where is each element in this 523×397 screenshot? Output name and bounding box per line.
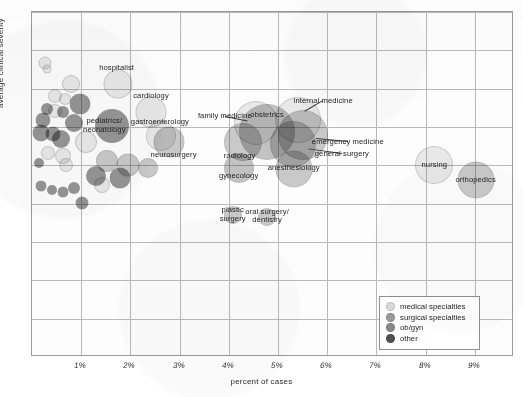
data-bubble	[258, 208, 276, 226]
data-bubble-unlabeled	[138, 158, 158, 178]
gridline-horizontal	[32, 50, 512, 51]
gridline-vertical	[278, 12, 279, 355]
legend-swatch-icon	[386, 323, 395, 332]
gridline-vertical	[180, 12, 181, 355]
data-bubble	[224, 206, 242, 224]
x-axis-tick-label: 5%	[270, 361, 283, 370]
legend-item: ob/gyn	[386, 323, 473, 332]
data-bubble-unlabeled	[62, 75, 80, 93]
gridline-vertical	[376, 12, 377, 355]
data-bubble-unlabeled	[94, 177, 110, 193]
x-axis-tick-label: 6%	[320, 361, 333, 370]
legend-item: surgical specialties	[386, 313, 473, 322]
data-bubble-unlabeled	[76, 196, 89, 209]
gridline-horizontal	[32, 242, 512, 243]
gridline-vertical	[327, 12, 328, 355]
gridline-horizontal	[32, 280, 512, 281]
x-axis-tick-label: 4%	[221, 361, 234, 370]
x-axis-tick-label: 9%	[467, 361, 480, 370]
data-bubble	[457, 161, 494, 198]
data-bubble-unlabeled	[57, 187, 68, 198]
data-bubble	[224, 153, 254, 183]
data-bubble-unlabeled	[47, 185, 57, 195]
x-axis-tick-label: 3%	[172, 361, 185, 370]
data-bubble-unlabeled	[52, 130, 70, 148]
legend-swatch-icon	[386, 334, 395, 343]
data-bubble	[415, 146, 453, 184]
data-bubble-unlabeled	[59, 158, 73, 172]
data-bubble	[104, 70, 133, 99]
x-axis-tick-label: 8%	[418, 361, 431, 370]
data-bubble-unlabeled	[68, 182, 80, 194]
x-axis-tick-label: 1%	[74, 361, 87, 370]
legend-item-label: surgical specialties	[400, 313, 465, 322]
data-bubble-unlabeled	[70, 94, 91, 115]
data-bubble-unlabeled	[35, 181, 46, 192]
data-bubble	[275, 151, 312, 188]
gridline-horizontal	[32, 12, 512, 13]
y-axis-title: average clinical severity	[0, 18, 5, 108]
legend-swatch-icon	[386, 302, 395, 311]
chart-title	[120, 0, 420, 4]
gridline-vertical	[130, 12, 131, 355]
data-bubble-unlabeled	[41, 146, 55, 160]
legend-item: medical specialties	[386, 302, 473, 311]
data-bubble-unlabeled	[59, 93, 71, 105]
legend-swatch-icon	[386, 313, 395, 322]
legend: medical specialtiessurgical specialtieso…	[379, 296, 480, 350]
data-bubble	[95, 109, 129, 143]
data-bubble-unlabeled	[65, 114, 83, 132]
x-axis-title: percent of cases	[0, 377, 523, 386]
data-bubble-unlabeled	[109, 168, 130, 189]
legend-item-label: other	[400, 334, 418, 343]
legend-item-label: ob/gyn	[400, 323, 423, 332]
gridline-vertical	[229, 12, 230, 355]
data-bubble	[153, 126, 184, 157]
data-bubble-unlabeled	[42, 64, 51, 73]
x-axis-tick-label: 2%	[123, 361, 136, 370]
data-bubble-unlabeled	[75, 131, 97, 153]
gridline-horizontal	[32, 204, 512, 205]
legend-item: other	[386, 334, 473, 343]
gridline-vertical	[81, 12, 82, 355]
x-axis-tick-label: 7%	[369, 361, 382, 370]
data-bubble-unlabeled	[34, 158, 44, 168]
legend-item-label: medical specialties	[400, 302, 465, 311]
